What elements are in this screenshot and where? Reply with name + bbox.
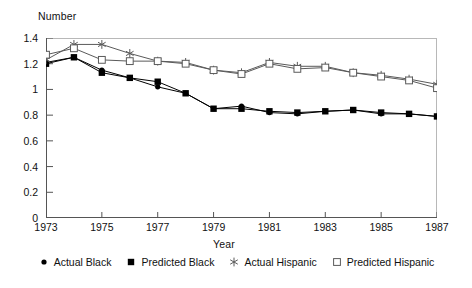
filled-square-icon <box>125 256 137 268</box>
data-point <box>155 79 161 85</box>
data-point <box>128 259 134 265</box>
series-predicted-hispanic <box>46 45 437 92</box>
data-point <box>378 73 385 80</box>
data-point <box>126 58 133 65</box>
series-line <box>46 48 437 88</box>
data-point <box>127 75 133 81</box>
legend-item-label: Predicted Hispanic <box>347 256 435 268</box>
data-point <box>71 54 77 60</box>
legend-item-label: Predicted Black <box>141 256 214 268</box>
legend-item: Predicted Black <box>125 256 214 268</box>
data-point <box>155 84 160 89</box>
x-axis-tick-label: 1987 <box>417 221 457 233</box>
data-point <box>238 71 245 78</box>
data-point <box>266 60 273 67</box>
data-point <box>182 60 189 67</box>
y-axis-tick-label: 0.2 <box>8 187 38 197</box>
chart-figure: Number Year 00.20.40.60.811.21.4 1973197… <box>0 0 472 288</box>
data-point <box>406 111 412 117</box>
series-canvas <box>46 38 437 218</box>
data-point <box>41 259 46 264</box>
x-axis-tick-label: 1983 <box>305 221 345 233</box>
data-point <box>378 109 384 115</box>
data-point <box>46 51 49 58</box>
y-axis-tick-label: 0.8 <box>8 110 38 120</box>
y-axis-tick-label: 1 <box>8 84 38 94</box>
legend-item: Actual Black <box>38 256 112 268</box>
data-point <box>98 56 105 63</box>
data-point <box>434 113 437 119</box>
data-point <box>294 109 300 115</box>
y-axis-tick-label: 0.4 <box>8 162 38 172</box>
data-point <box>434 85 437 92</box>
y-axis-tick-label: 1.2 <box>8 59 38 69</box>
data-point <box>126 49 134 58</box>
x-axis-tick-label: 1985 <box>361 221 401 233</box>
data-point <box>210 67 217 74</box>
x-axis-tick-label: 1973 <box>26 221 66 233</box>
x-axis-tick-label: 1981 <box>249 221 289 233</box>
data-point <box>322 108 328 114</box>
x-axis-tick-label: 1975 <box>82 221 122 233</box>
data-point <box>99 70 105 76</box>
star-icon <box>228 256 240 268</box>
y-axis-tick-label: 1.4 <box>8 33 38 43</box>
data-point <box>350 69 357 76</box>
x-axis-tick-label: 1977 <box>138 221 178 233</box>
data-point <box>182 90 188 96</box>
data-point <box>231 258 239 267</box>
legend-item-label: Actual Hispanic <box>244 256 316 268</box>
series-predicted-black <box>46 54 437 120</box>
data-point <box>333 259 340 266</box>
chart-legend: Actual BlackPredicted BlackActual Hispan… <box>0 256 472 268</box>
data-point <box>266 108 272 114</box>
filled-circle-icon <box>38 256 50 268</box>
legend-item-label: Actual Black <box>54 256 112 268</box>
data-point <box>154 58 161 65</box>
y-axis-title: Number <box>38 10 77 22</box>
open-square-icon <box>331 256 343 268</box>
plot-area <box>46 38 437 218</box>
data-point <box>406 77 413 84</box>
x-axis-title: Year <box>213 238 235 250</box>
legend-item: Actual Hispanic <box>228 256 316 268</box>
data-point <box>238 106 244 112</box>
legend-item: Predicted Hispanic <box>331 256 435 268</box>
y-axis-ticks: 00.20.40.60.811.21.4 <box>4 0 38 288</box>
data-point <box>71 45 78 52</box>
data-point <box>294 65 301 72</box>
data-point <box>210 106 216 112</box>
data-point <box>322 64 329 71</box>
y-axis-tick-label: 0.6 <box>8 136 38 146</box>
x-axis-tick-label: 1979 <box>194 221 234 233</box>
series-actual-hispanic <box>46 40 437 89</box>
data-point <box>350 107 356 113</box>
